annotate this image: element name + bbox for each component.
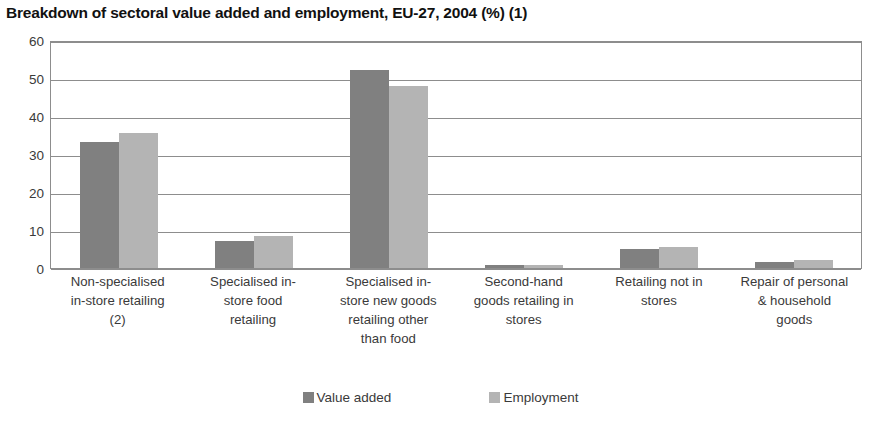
bar-value-added: [485, 265, 524, 268]
y-axis-tick-label: 20: [0, 186, 44, 201]
x-axis-category-line: (2): [52, 310, 183, 329]
bar-group: [321, 42, 456, 268]
x-axis-category-line: goods: [729, 310, 860, 329]
x-axis-category-line: store new goods: [323, 291, 454, 310]
y-axis: 0102030405060: [0, 41, 44, 269]
bar-value-added: [350, 70, 389, 268]
bar-employment: [254, 236, 293, 268]
x-axis: Non-specialisedin-store retailing(2)Spec…: [50, 272, 862, 368]
legend-swatch-icon: [489, 392, 500, 403]
x-axis-category-line: Retailing not in: [593, 272, 724, 291]
x-axis-category-label: Specialised in-store new goodsretailing …: [321, 272, 456, 368]
x-axis-category-line: Second-hand: [458, 272, 589, 291]
bar-group: [186, 42, 321, 268]
bar-employment: [119, 133, 158, 268]
x-axis-category-label: Repair of personal& householdgoods: [727, 272, 862, 368]
x-axis-category-label: Non-specialisedin-store retailing(2): [50, 272, 185, 368]
x-axis-category-line: goods retailing in: [458, 291, 589, 310]
plot-area: [50, 41, 862, 269]
bar-employment: [524, 265, 563, 268]
bar-employment: [794, 260, 833, 268]
x-axis-category-line: retailing other: [323, 310, 454, 329]
bar-employment: [659, 247, 698, 268]
bar-group: [726, 42, 861, 268]
x-axis-category-line: & household: [729, 291, 860, 310]
x-axis-category-label: Retailing not instores: [591, 272, 726, 368]
gridline: [51, 269, 861, 270]
x-axis-category-label: Second-handgoods retailing instores: [456, 272, 591, 368]
x-axis-category-line: Specialised in-: [323, 272, 454, 291]
bar-value-added: [620, 249, 659, 268]
x-axis-category-label: Specialised in-store foodretailing: [185, 272, 320, 368]
bar-group: [591, 42, 726, 268]
bar-employment: [389, 86, 428, 268]
y-axis-tick-label: 50: [0, 72, 44, 87]
x-axis-category-line: stores: [593, 291, 724, 310]
legend-label: Employment: [503, 390, 578, 405]
chart-legend: Value addedEmployment: [0, 390, 881, 405]
legend-entry-employment[interactable]: Employment: [489, 390, 578, 405]
x-axis-category-line: in-store retailing: [52, 291, 183, 310]
x-axis-category-line: than food: [323, 329, 454, 348]
y-axis-tick-label: 60: [0, 34, 44, 49]
x-axis-category-line: stores: [458, 310, 589, 329]
x-axis-category-line: Non-specialised: [52, 272, 183, 291]
page-title: Breakdown of sectoral value added and em…: [6, 4, 876, 22]
bar-group: [51, 42, 186, 268]
bar-value-added: [755, 262, 794, 268]
bar-value-added: [80, 142, 119, 268]
bar-group: [456, 42, 591, 268]
y-axis-tick-label: 10: [0, 224, 44, 239]
legend-label: Value added: [317, 390, 392, 405]
x-axis-category-line: retailing: [187, 310, 318, 329]
bar-value-added: [215, 241, 254, 268]
y-axis-tick-label: 40: [0, 110, 44, 125]
y-axis-tick-label: 0: [0, 262, 44, 277]
x-axis-category-line: Repair of personal: [729, 272, 860, 291]
bars-layer: [51, 42, 861, 268]
x-axis-category-line: Specialised in-: [187, 272, 318, 291]
y-axis-tick-label: 30: [0, 148, 44, 163]
legend-swatch-icon: [303, 392, 314, 403]
x-axis-category-line: store food: [187, 291, 318, 310]
legend-entry-value-added[interactable]: Value added: [303, 390, 392, 405]
